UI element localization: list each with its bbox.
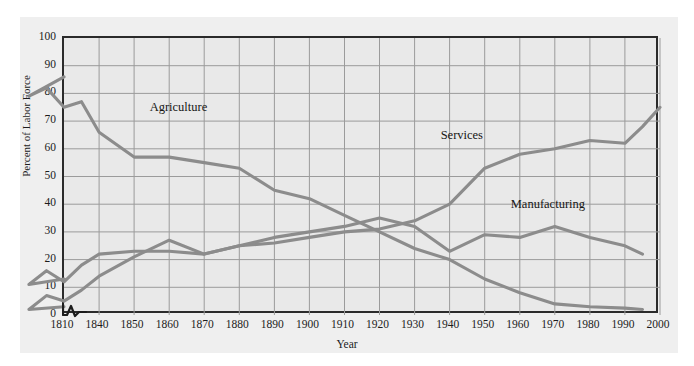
y-axis-label: Percent of Labor Force (20, 56, 32, 196)
x-tick-label: 1900 (296, 318, 319, 330)
x-tick-label: 1910 (331, 318, 354, 330)
x-tick-label: 2000 (647, 318, 670, 330)
series-label-manufacturing: Manufacturing (511, 197, 585, 212)
x-tick-label: 1880 (226, 318, 249, 330)
x-tick-label: 1990 (611, 318, 634, 330)
data-lines (64, 38, 660, 315)
y-tick-label: 30 (22, 225, 56, 235)
x-tick-label: 1960 (506, 318, 529, 330)
y-tick-label: 100 (22, 31, 56, 41)
x-tick-label: 1840 (86, 318, 109, 330)
x-tick-label: 1970 (541, 318, 564, 330)
x-tick-label: 1940 (436, 318, 459, 330)
x-tick-label: 1810 (51, 318, 74, 330)
x-tick-label: 1950 (471, 318, 494, 330)
axis-break-icon (62, 303, 88, 319)
x-tick-label: 1890 (261, 318, 284, 330)
chart-figure: 0102030405060708090100 Percent of Labor … (0, 0, 694, 366)
series-line-services (29, 107, 660, 284)
x-tick-label: 1870 (191, 318, 214, 330)
x-tick-label: 1920 (366, 318, 389, 330)
y-tick-label: 40 (22, 197, 56, 207)
series-line-agriculture (29, 77, 643, 310)
x-tick-label: 1930 (401, 318, 424, 330)
y-tick-label: 20 (22, 253, 56, 263)
x-tick-label: 1860 (156, 318, 179, 330)
x-tick-label: 1980 (576, 318, 599, 330)
plot-area (62, 36, 658, 313)
x-axis-label: Year (0, 338, 694, 350)
series-label-agriculture: Agriculture (150, 100, 208, 115)
x-tick-label: 1850 (121, 318, 144, 330)
series-label-services: Services (441, 128, 483, 143)
